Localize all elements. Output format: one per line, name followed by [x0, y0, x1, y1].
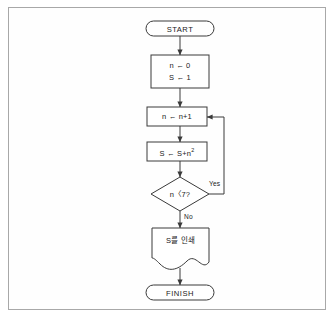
flowchart-canvas: [0, 0, 336, 319]
node-start-label: START: [146, 25, 214, 34]
node-init-label-line1: n ← 0: [151, 61, 209, 70]
node-accumulate-label-exponent: 2: [191, 147, 194, 153]
node-decision-label: n〈7?: [151, 190, 209, 199]
node-print-shape: [152, 228, 209, 269]
edge-no-label: No: [184, 213, 204, 221]
node-init-label-line2: S ← 1: [151, 73, 209, 82]
node-init-shape: [151, 55, 209, 88]
node-print-label: S를 인쇄: [152, 236, 209, 245]
node-accumulate-label-base: S ← S+n: [160, 149, 192, 158]
node-accumulate-label: S ← S+n2: [147, 147, 207, 158]
node-finish-label: FINISH: [146, 289, 214, 298]
edge-yes-label: Yes: [209, 180, 233, 188]
node-increment-label: n ← n+1: [147, 112, 207, 121]
